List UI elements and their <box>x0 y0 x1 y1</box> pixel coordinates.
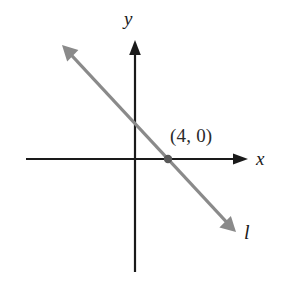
y-axis-arrowhead <box>129 40 141 55</box>
y-axis-label: y <box>124 9 132 28</box>
x-axis-arrowhead <box>233 153 248 164</box>
coordinate-plane-figure: y x l (4, 0) <box>0 0 284 284</box>
point-marker-x-intercept <box>164 155 172 163</box>
figure-canvas <box>0 0 284 284</box>
line-l-label: l <box>244 222 250 242</box>
x-intercept-point-label: (4, 0) <box>170 126 212 145</box>
x-axis-label: x <box>256 149 264 168</box>
